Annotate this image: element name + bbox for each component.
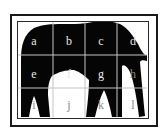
cell-label-e: e <box>24 68 44 80</box>
cell-label-b: b <box>59 35 79 47</box>
cell-label-c: c <box>91 35 111 47</box>
elephant-figure <box>0 0 167 131</box>
cell-label-i: i <box>24 99 44 111</box>
cell-label-a: a <box>24 35 44 47</box>
cell-label-f: f <box>59 68 79 80</box>
cell-label-k: k <box>91 99 111 111</box>
cell-label-g: g <box>91 68 111 80</box>
cell-label-l: l <box>123 99 143 111</box>
cell-label-j: j <box>59 99 79 111</box>
cell-label-d: d <box>123 35 143 47</box>
cell-label-h: h <box>123 68 143 80</box>
